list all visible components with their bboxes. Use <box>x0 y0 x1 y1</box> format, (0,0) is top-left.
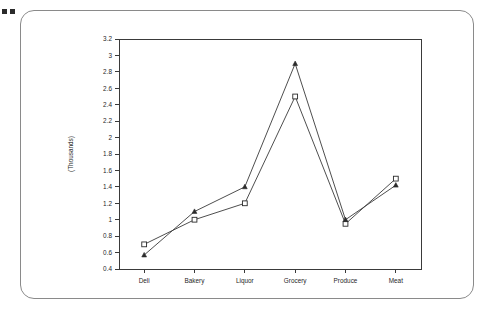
y-tick-label: 3.2 <box>103 35 112 42</box>
y-tick-label: 0.8 <box>103 232 112 239</box>
data-point-marker <box>293 94 298 99</box>
y-tick-label: 1.2 <box>103 200 112 207</box>
chart-canvas: (Thousands) 3.232.82.62.42.221.81.61.41.… <box>21 11 475 300</box>
x-tick-label: Bakery <box>185 277 206 285</box>
line-chart-figure: (Thousands) 3.232.82.62.42.221.81.61.41.… <box>21 11 473 298</box>
y-tick-label: 3 <box>108 52 112 59</box>
data-point-marker <box>393 183 398 188</box>
y-tick-label: 0.4 <box>103 265 112 272</box>
y-axis-title: (Thousands) <box>67 136 75 172</box>
data-point-marker <box>343 221 348 226</box>
data-point-marker <box>293 61 298 66</box>
y-tick-label: 1.8 <box>103 150 112 157</box>
chart-series <box>144 64 396 255</box>
data-point-marker <box>393 176 398 181</box>
y-tick-label: 2.6 <box>103 85 112 92</box>
x-tick-label: Grocery <box>284 277 308 285</box>
x-tick-label: Produce <box>334 277 358 284</box>
data-point-marker <box>242 184 247 189</box>
x-tick-label: Liquor <box>236 277 255 285</box>
y-tick-label: 0.6 <box>103 249 112 256</box>
y-tick-label: 2.2 <box>103 117 112 124</box>
corner-mark-2 <box>10 9 15 14</box>
x-axis-ticks: DeliBakeryLiquorGroceryProduceMeat <box>139 269 403 285</box>
data-point-marker <box>192 217 197 222</box>
data-point-marker <box>242 201 247 206</box>
x-tick-label: Deli <box>139 277 150 284</box>
y-axis-title-label: (Thousands) <box>67 136 75 172</box>
y-tick-label: 2.8 <box>103 68 112 75</box>
y-tick-label: 2.4 <box>103 101 112 108</box>
y-tick-label: 1.6 <box>103 167 112 174</box>
slide-panel: (Thousands) 3.232.82.62.42.221.81.61.41.… <box>20 10 474 299</box>
y-axis-ticks: 3.232.82.62.42.221.81.61.41.210.80.60.4 <box>103 35 119 272</box>
chart-markers <box>142 61 398 257</box>
y-tick-label: 2 <box>108 134 112 141</box>
corner-mark-1 <box>2 9 7 14</box>
x-tick-label: Meat <box>389 277 403 284</box>
slide-corner-marks <box>2 9 18 17</box>
y-tick-label: 1 <box>108 216 112 223</box>
y-tick-label: 1.4 <box>103 183 112 190</box>
data-point-marker <box>142 242 147 247</box>
